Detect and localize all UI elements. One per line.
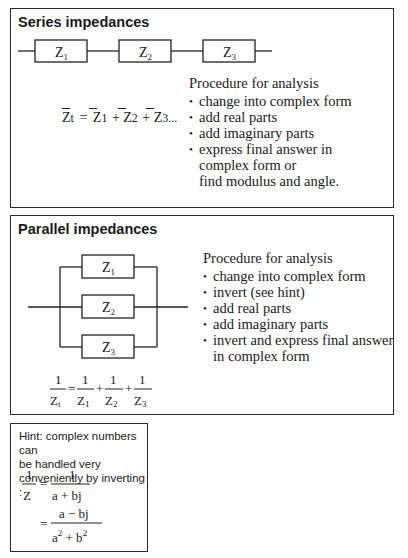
svg-text:a + bj: a + bj [52, 488, 82, 503]
procedure-step: add imaginary parts [189, 125, 352, 141]
parallel-procedure-steps: change into complex form invert (see hin… [203, 268, 393, 364]
svg-text:Z: Z [23, 488, 31, 503]
series-impedance-z3: Z3 [203, 40, 255, 62]
parallel-procedure: Procedure for analysis change into compl… [203, 250, 393, 364]
svg-text:=: = [40, 476, 47, 491]
series-total-formula: Zt = Z1 + Z2 + Z3... [55, 104, 180, 128]
procedure-step: change into complex form [203, 268, 393, 284]
svg-text:1: 1 [55, 372, 62, 387]
svg-text:1: 1 [26, 467, 33, 482]
procedure-step: add real parts [189, 109, 352, 125]
svg-text:a − bj: a − bj [59, 506, 89, 521]
svg-text:=: = [40, 516, 47, 531]
parallel-title: Parallel impedances [18, 221, 157, 237]
svg-text:Z3: Z3 [134, 393, 147, 409]
series-impedance-z2: Z2 [119, 40, 171, 62]
svg-text:1: 1 [110, 372, 117, 387]
parallel-circuit-diagram: Z1 Z2 Z3 [0, 240, 200, 370]
parallel-impedance-z1: Z1 [82, 255, 134, 278]
svg-text:Z1: Z1 [77, 393, 89, 409]
series-procedure-steps: change into complex form add real parts … [189, 93, 352, 189]
procedure-step: add real parts [203, 300, 393, 316]
svg-text:+: + [125, 381, 132, 396]
procedure-step: add imaginary parts [203, 316, 393, 332]
series-impedance-z1: Z1 [35, 40, 87, 62]
svg-text:+: + [96, 381, 103, 396]
procedure-step: invert and express final answer in compl… [203, 332, 393, 364]
hint-inversion-formula: 1 Z = 1 a + bj = a − bj a2 + b2 [20, 466, 140, 550]
parallel-impedance-z3: Z3 [82, 335, 134, 358]
procedure-step: invert (see hint) [203, 284, 393, 300]
parallel-impedance-z2: Z2 [82, 295, 134, 318]
svg-text:=: = [68, 381, 75, 396]
svg-text:Zt: Zt [50, 393, 61, 409]
svg-text:1: 1 [139, 372, 146, 387]
parallel-total-formula: 1 Zt = 1 Z1 + 1 Z2 + 1 Z3 [50, 370, 170, 412]
svg-text:1: 1 [82, 372, 89, 387]
series-procedure-heading: Procedure for analysis [189, 75, 352, 91]
procedure-step: change into complex form [189, 93, 352, 109]
svg-text:Z2: Z2 [105, 393, 117, 409]
parallel-procedure-heading: Procedure for analysis [203, 250, 393, 266]
svg-text:a2 + b2: a2 + b2 [52, 528, 87, 545]
series-procedure: Procedure for analysis change into compl… [189, 75, 352, 189]
procedure-step: express final answer in complex form or … [189, 141, 352, 189]
svg-text:Zt = Z1 + Z2: Zt = Z1 + Z2 + Z3... [62, 110, 177, 125]
series-circuit-diagram: Z1 Z2 Z3 [0, 0, 408, 80]
svg-text:1: 1 [69, 467, 76, 482]
